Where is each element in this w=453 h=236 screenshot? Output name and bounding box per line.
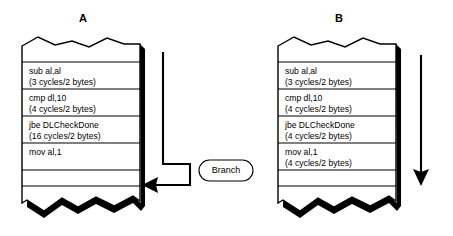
panel-a-row-1-instruction: cmp dl,10 <box>29 93 66 103</box>
branch-jump-arrow <box>152 52 190 185</box>
panel-b-row-2-timing: (4 cycles/2 bytes) <box>285 131 352 141</box>
panel-b-row-1-timing: (4 cycles/2 bytes) <box>285 104 352 114</box>
panel-b-row-2-instruction: jbe DLCheckDone <box>285 120 355 130</box>
panel-a-row-2-timing: (16 cycles/2 bytes) <box>29 131 101 141</box>
panel-a-row-0-instruction: sub al,al <box>29 66 61 76</box>
instruction-stream-diagram: A B s <box>0 0 453 236</box>
branch-callout-label: Branch <box>205 165 247 175</box>
panel-b-row-3-instruction: mov al,1 <box>285 147 317 157</box>
panel-a-row-2-instruction: jbe DLCheckDone <box>29 120 99 130</box>
panel-b-row-3-timing: (4 cycles/2 bytes) <box>285 158 352 168</box>
panel-a-row-1-timing: (4 cycles/2 bytes) <box>29 104 96 114</box>
panel-b-row-0-instruction: sub al,al <box>285 66 317 76</box>
diagram-canvas <box>0 0 453 236</box>
panel-b-right-shadow <box>396 44 401 211</box>
panel-a-row-0-timing: (3 cycles/2 bytes) <box>29 77 96 87</box>
panel-b-row-0-timing: (3 cycles/2 bytes) <box>285 77 352 87</box>
panel-a-row-3-instruction: mov al,1 <box>29 147 61 157</box>
panel-b-row-1-instruction: cmp dl,10 <box>285 93 322 103</box>
